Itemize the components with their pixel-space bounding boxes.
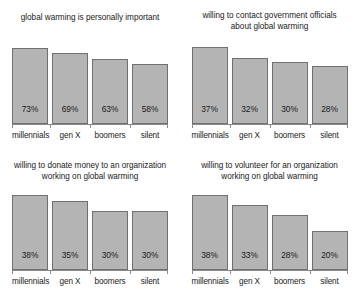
bar-slot-silent: 20%	[312, 184, 348, 270]
bar-silent[interactable]: 20%	[312, 231, 348, 271]
bar-series: 38% 35% 30% 30%	[12, 184, 168, 270]
x-axis	[192, 124, 348, 128]
bar-gen-x[interactable]: 33%	[232, 205, 268, 270]
bar-millennials[interactable]: 38%	[192, 195, 228, 270]
bar-gen-x[interactable]: 35%	[52, 201, 88, 270]
axis-tick	[192, 125, 193, 128]
panel-title-line-1: willing to donate money to an organizati…	[6, 161, 174, 172]
bar-slot-silent: 28%	[312, 34, 348, 124]
bar-boomers[interactable]: 30%	[92, 211, 128, 270]
category-label-gen-x: gen X	[232, 131, 268, 140]
bar-gen-x[interactable]: 32%	[232, 58, 268, 124]
plot-area: 73% 69% 63% 58%	[12, 34, 168, 128]
bar-millennials[interactable]: 37%	[192, 47, 228, 124]
category-label-boomers: boomers	[272, 277, 308, 286]
bar-value-label: 30%	[102, 250, 118, 269]
bar-slot-boomers: 30%	[272, 34, 308, 124]
bar-slot-millennials: 38%	[192, 184, 228, 270]
axis-tick	[270, 271, 271, 274]
bar-gen-x[interactable]: 69%	[52, 53, 88, 125]
bar-silent[interactable]: 30%	[132, 211, 168, 270]
category-label-silent: silent	[132, 277, 168, 286]
panel-title-box: willing to donate money to an organizati…	[6, 150, 174, 184]
panel-title-box: willing to contact government officials …	[186, 0, 353, 34]
panel-title-line-2: working on global warming	[186, 172, 353, 183]
axis-tick	[167, 271, 168, 274]
bar-boomers[interactable]: 30%	[272, 62, 308, 124]
bar-value-label: 38%	[201, 250, 217, 269]
axis-tick	[167, 125, 168, 128]
category-labels: millennials gen X boomers silent	[192, 128, 348, 140]
panel-title-box: willing to volunteer for an organization…	[186, 150, 353, 184]
bar-slot-millennials: 73%	[12, 34, 48, 124]
x-axis	[192, 270, 348, 274]
category-labels: millennials gen X boomers silent	[192, 274, 348, 286]
bar-slot-boomers: 28%	[272, 184, 308, 270]
plot-area: 38% 35% 30% 30%	[12, 184, 168, 274]
panel-title-line-1: willing to contact government officials	[186, 11, 353, 22]
panel-footer: millennials gen X boomers silent	[12, 274, 168, 296]
bar-series: 73% 69% 63% 58%	[12, 34, 168, 124]
bar-value-label: 20%	[321, 250, 337, 269]
bar-value-label: 37%	[201, 104, 217, 123]
bar-slot-millennials: 38%	[12, 184, 48, 270]
panel-title-line-2: about global warming	[186, 22, 353, 33]
category-label-millennials: millennials	[192, 131, 228, 140]
bar-value-label: 30%	[142, 250, 158, 269]
category-labels: millennials gen X boomers silent	[12, 274, 168, 286]
panel-title-box: global warming is personally important	[6, 0, 174, 34]
category-label-millennials: millennials	[12, 131, 48, 140]
panel-title: global warming is personally important	[6, 13, 174, 24]
bar-slot-boomers: 63%	[92, 34, 128, 124]
category-label-gen-x: gen X	[232, 277, 268, 286]
bar-value-label: 69%	[62, 104, 78, 123]
panel-title-line-1: willing to volunteer for an organization	[186, 161, 353, 172]
x-axis	[12, 124, 168, 128]
panel-footer: millennials gen X boomers silent	[12, 128, 168, 150]
axis-tick	[12, 125, 13, 128]
bar-slot-silent: 58%	[132, 34, 168, 124]
axis-tick	[347, 125, 348, 128]
panel-volunteer: willing to volunteer for an organization…	[180, 150, 359, 296]
category-label-silent: silent	[312, 277, 348, 286]
bar-series: 37% 32% 30% 28%	[192, 34, 348, 124]
category-label-boomers: boomers	[272, 131, 308, 140]
bar-boomers[interactable]: 28%	[272, 215, 308, 270]
bar-value-label: 73%	[22, 104, 38, 123]
bar-silent[interactable]: 58%	[132, 64, 168, 124]
bar-value-label: 28%	[281, 250, 297, 269]
bar-boomers[interactable]: 63%	[92, 59, 128, 124]
axis-tick	[347, 271, 348, 274]
axis-tick	[310, 125, 311, 128]
axis-tick	[230, 125, 231, 128]
category-labels: millennials gen X boomers silent	[12, 128, 168, 140]
category-label-gen-x: gen X	[52, 277, 88, 286]
panel-contact-government-officials: willing to contact government officials …	[180, 0, 359, 150]
axis-tick	[270, 125, 271, 128]
category-label-boomers: boomers	[92, 277, 128, 286]
axis-tick	[192, 271, 193, 274]
panel-footer: millennials gen X boomers silent	[192, 274, 348, 296]
axis-tick	[50, 125, 51, 128]
bar-millennials[interactable]: 38%	[12, 195, 48, 270]
plot-area: 38% 33% 28% 20%	[192, 184, 348, 274]
bar-slot-boomers: 30%	[92, 184, 128, 270]
panel-donate-money: willing to donate money to an organizati…	[0, 150, 180, 296]
bar-slot-gen-x: 32%	[232, 34, 268, 124]
category-label-silent: silent	[132, 131, 168, 140]
axis-tick	[230, 271, 231, 274]
bar-value-label: 30%	[281, 104, 297, 123]
bar-value-label: 28%	[321, 104, 337, 123]
panel-title: willing to contact government officials …	[186, 11, 353, 32]
panel-title-line-2: working on global warming	[6, 172, 174, 183]
axis-tick	[90, 271, 91, 274]
axis-tick	[130, 271, 131, 274]
bar-millennials[interactable]: 73%	[12, 48, 48, 124]
bar-silent[interactable]: 28%	[312, 66, 348, 124]
panel-title: willing to volunteer for an organization…	[186, 161, 353, 182]
axis-tick	[90, 125, 91, 128]
category-label-gen-x: gen X	[52, 131, 88, 140]
panel-title-line-1: global warming is personally important	[6, 13, 174, 24]
axis-tick	[50, 271, 51, 274]
bar-slot-gen-x: 35%	[52, 184, 88, 270]
